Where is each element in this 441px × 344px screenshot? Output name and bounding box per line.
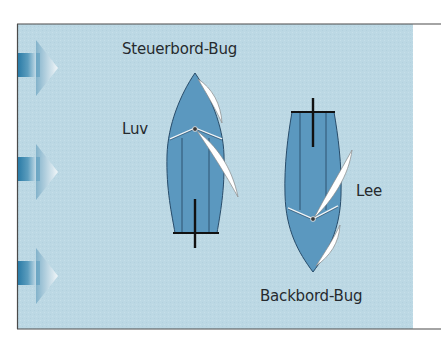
label-leeward: Lee — [356, 184, 382, 199]
tack-diagram: Steuerbord-Bug Luv Lee Backbord-Bug — [0, 0, 441, 344]
label-windward: Luv — [122, 122, 148, 137]
label-port-tack: Backbord-Bug — [260, 289, 362, 304]
label-starboard-tack: Steuerbord-Bug — [122, 42, 237, 57]
